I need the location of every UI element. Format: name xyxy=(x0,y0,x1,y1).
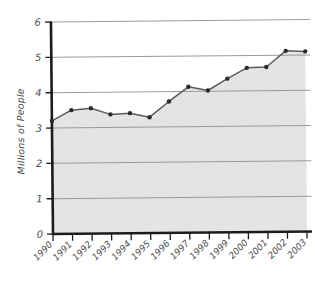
svg-text:1992: 1992 xyxy=(70,239,93,263)
svg-text:1991: 1991 xyxy=(51,239,74,262)
svg-text:1: 1 xyxy=(36,193,42,204)
svg-text:1998: 1998 xyxy=(188,238,211,262)
svg-text:1996: 1996 xyxy=(149,238,172,262)
area-chart: 0123456 19901991199219931994199519961997… xyxy=(0,0,318,282)
svg-text:2002: 2002 xyxy=(266,237,289,261)
svg-text:4: 4 xyxy=(35,87,41,98)
svg-text:1994: 1994 xyxy=(109,238,132,262)
svg-text:1997: 1997 xyxy=(168,238,191,262)
svg-text:1993: 1993 xyxy=(90,239,113,263)
chart-container: 0123456 19901991199219931994199519961997… xyxy=(0,0,318,282)
svg-text:6: 6 xyxy=(35,17,41,28)
svg-text:2001: 2001 xyxy=(246,237,269,260)
chart-area-fill xyxy=(51,51,307,234)
svg-text:2: 2 xyxy=(36,158,42,169)
y-axis-title: Millions of People xyxy=(15,88,27,174)
svg-text:1995: 1995 xyxy=(129,238,152,262)
svg-text:0: 0 xyxy=(37,229,43,240)
svg-text:2000: 2000 xyxy=(227,237,250,261)
svg-text:1990: 1990 xyxy=(31,239,54,263)
y-axis-tick-labels: 0123456 xyxy=(35,17,44,240)
svg-text:3: 3 xyxy=(36,123,42,134)
svg-text:1999: 1999 xyxy=(207,238,230,262)
svg-text:2003: 2003 xyxy=(285,237,308,261)
svg-text:5: 5 xyxy=(35,52,41,63)
